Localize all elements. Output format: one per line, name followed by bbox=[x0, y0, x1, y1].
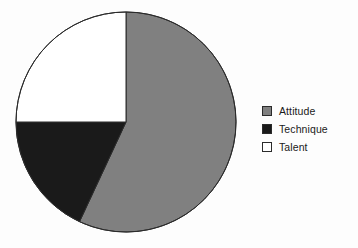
legend-item-talent[interactable]: Talent bbox=[262, 139, 358, 155]
legend-item-attitude[interactable]: Attitude bbox=[262, 103, 358, 119]
pie-slice-talent[interactable] bbox=[16, 12, 126, 122]
legend-swatch-icon-technique bbox=[262, 124, 272, 134]
legend-label-technique: Technique bbox=[279, 123, 328, 135]
pie-slice-group bbox=[16, 12, 236, 232]
legend-label-talent: Talent bbox=[279, 141, 308, 153]
legend-swatch-icon-attitude bbox=[262, 106, 272, 116]
legend-label-attitude: Attitude bbox=[279, 105, 315, 117]
pie-svg bbox=[0, 0, 252, 248]
pie-chart: Attitude Technique Talent bbox=[0, 0, 358, 248]
pie-plot-area bbox=[0, 0, 252, 248]
legend-item-technique[interactable]: Technique bbox=[262, 121, 358, 137]
legend-swatch-icon-talent bbox=[262, 142, 272, 152]
chart-legend: Attitude Technique Talent bbox=[262, 103, 358, 157]
